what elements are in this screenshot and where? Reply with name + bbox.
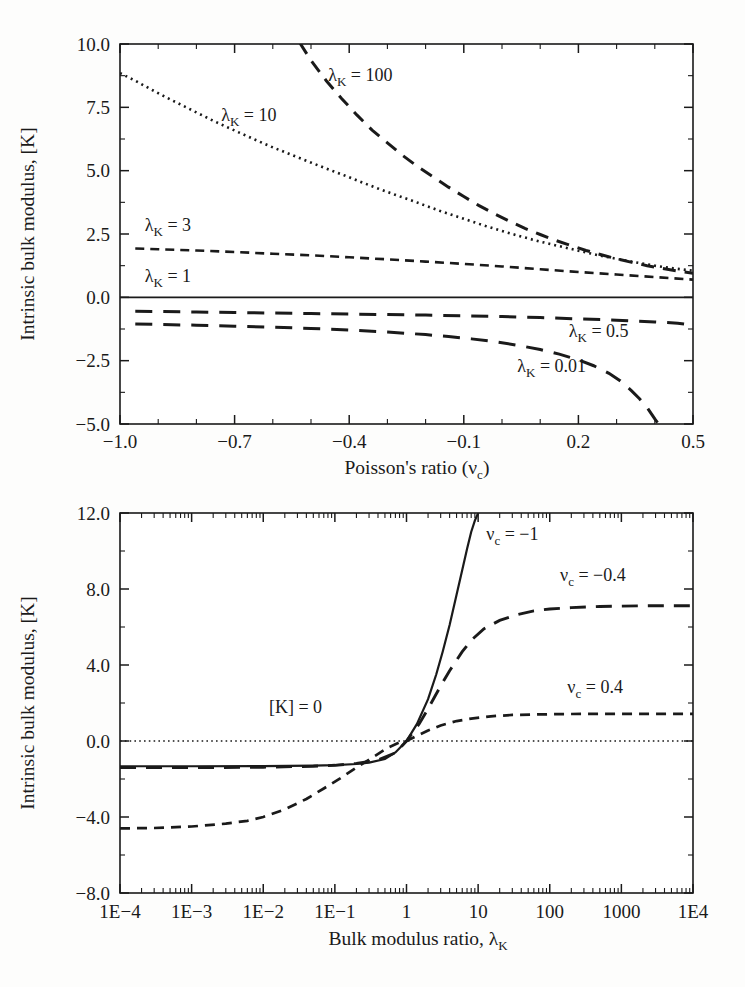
y-tick-label: −4.0: [76, 807, 110, 828]
x-tick-label: −0.1: [447, 431, 481, 452]
x-tick-label: 1E4: [678, 901, 709, 922]
y-tick-label: −5.0: [76, 414, 110, 435]
y-axis-title: Intrinsic bulk modulus, [K]: [17, 596, 38, 809]
y-tick-label: 10.0: [77, 34, 110, 55]
x-tick-label: 1E−4: [99, 901, 141, 922]
x-tick-label: 100: [536, 901, 565, 922]
x-tick-label: −0.7: [217, 431, 251, 452]
x-tick-label: 1: [402, 901, 412, 922]
chart-bottom-svg: [K] = 0νc = −1νc = −0.4νc = 0.41E−41E−31…: [0, 490, 745, 987]
chart-top-poissons-ratio: λK = 100λK = 10λK = 3λK = 1λK = 0.5λK = …: [0, 0, 745, 490]
y-tick-label: −8.0: [76, 883, 110, 904]
x-tick-label: 1E−1: [314, 901, 355, 922]
y-tick-label: 7.5: [86, 97, 110, 118]
y-tick-label: −2.5: [76, 350, 110, 371]
x-axis-title: Bulk modulus ratio, λK: [329, 928, 509, 953]
x-tick-label: 1E−3: [171, 901, 212, 922]
x-axis-title: Poisson's ratio (νc): [345, 457, 490, 482]
y-axis-title: Intrinsic bulk modulus, [K]: [17, 127, 38, 340]
curve-label--k-0: [K] = 0: [269, 697, 322, 717]
y-tick-label: 0.0: [86, 731, 110, 752]
chart-top-svg: λK = 100λK = 10λK = 3λK = 1λK = 0.5λK = …: [0, 0, 745, 490]
x-tick-label: 1E−2: [243, 901, 284, 922]
y-tick-label: 8.0: [86, 579, 110, 600]
x-tick-label: −0.4: [332, 431, 367, 452]
y-tick-label: 2.5: [86, 224, 110, 245]
plot-background: [120, 44, 693, 424]
x-tick-label: 1000: [602, 901, 640, 922]
x-tick-label: 10: [469, 901, 488, 922]
y-tick-label: 0.0: [86, 287, 110, 308]
x-tick-label: 0.5: [681, 431, 705, 452]
y-tick-label: 5.0: [86, 160, 110, 181]
y-tick-label: 12.0: [77, 503, 110, 524]
y-tick-label: 4.0: [86, 655, 110, 676]
figure-page: λK = 100λK = 10λK = 3λK = 1λK = 0.5λK = …: [0, 0, 745, 987]
x-tick-label: 0.2: [567, 431, 591, 452]
chart-bottom-bulk-modulus-ratio: [K] = 0νc = −1νc = −0.4νc = 0.41E−41E−31…: [0, 490, 745, 987]
